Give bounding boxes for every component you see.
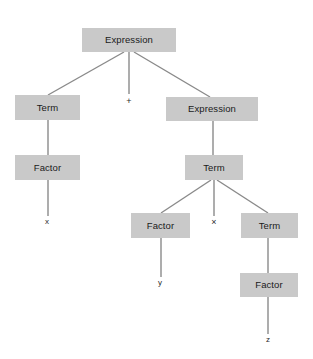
node-label: Term [37,103,59,113]
node-label: Factor [147,221,175,231]
node-right_expression: Expression [166,97,258,121]
edge-mid-term-to-factor [161,180,211,213]
node-right_factor: Factor [240,273,298,297]
terminal_z: z [266,336,270,344]
node-mid_term: Term [185,155,243,180]
terminal_plus: + [126,97,131,106]
edge-root-to-left-term [48,52,124,95]
terminal_times: × [211,218,216,227]
node-root_expression: Expression [82,28,176,52]
node-label: Expression [188,104,236,114]
parse-tree-figure: ExpressionTermFactorExpressionTermFactor… [0,0,313,359]
terminal_y: y [158,279,162,287]
node-label: Expression [105,35,153,45]
terminal_x: x [45,218,49,226]
node-left_term: Term [15,95,80,120]
edge-mid-term-to-right-term [217,180,268,213]
edge-root-to-right-expression [134,52,210,97]
node-label: Factor [255,280,283,290]
node-label: Term [203,163,225,173]
node-label: Term [259,221,281,231]
node-mid_factor: Factor [131,213,190,238]
node-right_term: Term [241,213,298,238]
node-label: Factor [34,163,62,173]
node-left_factor: Factor [15,155,80,180]
